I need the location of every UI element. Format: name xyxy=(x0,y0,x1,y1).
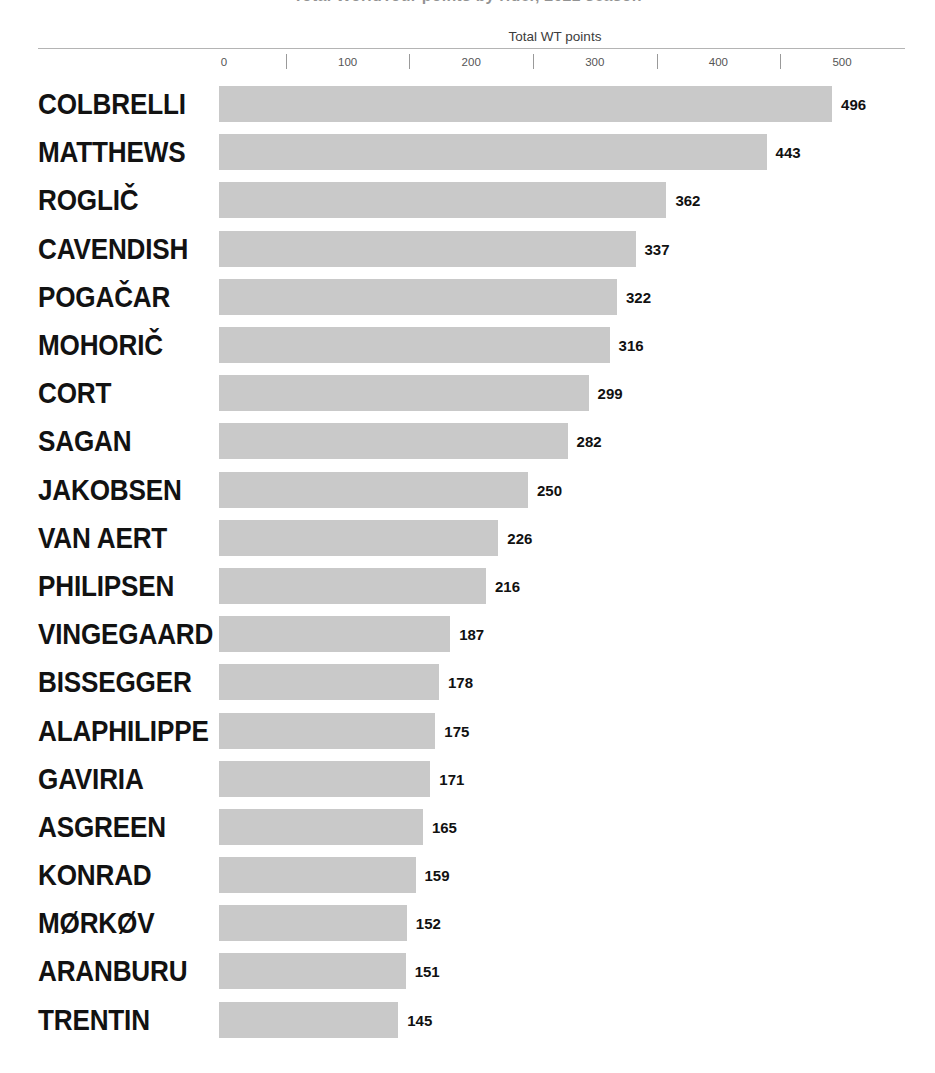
bar-row-label: ASGREEN xyxy=(38,812,166,842)
bar-row-label: BISSEGGER xyxy=(38,667,192,697)
bar-row-label: VAN AERT xyxy=(38,523,167,553)
bar-track: 282 xyxy=(219,423,919,459)
bar-track: 496 xyxy=(219,86,919,122)
clipped-chart-title: Total WorldTour points by rider, 2021 se… xyxy=(0,0,935,12)
bar xyxy=(219,134,767,170)
bar-row-label: MATTHEWS xyxy=(38,137,185,167)
clipped-chart-title-text: Total WorldTour points by rider, 2021 se… xyxy=(0,0,935,5)
bar-row-label: COLBRELLI xyxy=(38,89,186,119)
bar xyxy=(219,86,832,122)
bar-row-label: CORT xyxy=(38,378,111,408)
bar-row: ROGLIČ362 xyxy=(0,176,935,224)
bar xyxy=(219,182,666,218)
bar-track: 165 xyxy=(219,809,919,845)
bar-row: VINGEGAARD187 xyxy=(0,610,935,658)
bar-track: 337 xyxy=(219,231,919,267)
bar-track: 226 xyxy=(219,520,919,556)
bar-value-label: 322 xyxy=(626,289,651,304)
bar-track: 362 xyxy=(219,182,919,218)
bar-row: VAN AERT226 xyxy=(0,514,935,562)
bar-row-label: SAGAN xyxy=(38,426,131,456)
bar-row-label: TRENTIN xyxy=(38,1005,150,1035)
bar-row: CAVENDISH337 xyxy=(0,225,935,273)
bar xyxy=(219,231,636,267)
x-tick-label: 400 xyxy=(709,56,728,68)
bar-row: MØRKØV152 xyxy=(0,899,935,947)
bar-row-label: ROGLIČ xyxy=(38,185,138,215)
bar-value-label: 151 xyxy=(415,964,440,979)
bar-row-label: GAVIRIA xyxy=(38,764,144,794)
bar-value-label: 250 xyxy=(537,482,562,497)
bar-value-label: 216 xyxy=(495,578,520,593)
bar-value-label: 145 xyxy=(407,1012,432,1027)
bar xyxy=(219,905,407,941)
bar-track: 216 xyxy=(219,568,919,604)
bar-row-label: ARANBURU xyxy=(38,956,187,986)
x-tick-mark xyxy=(780,54,781,69)
bar-track: 316 xyxy=(219,327,919,363)
bar-track: 250 xyxy=(219,472,919,508)
bar-value-label: 443 xyxy=(776,145,801,160)
bar-row: GAVIRIA171 xyxy=(0,755,935,803)
bar xyxy=(219,713,435,749)
x-tick-label: 200 xyxy=(462,56,481,68)
x-tick-mark xyxy=(409,54,410,69)
bar-row-label: CAVENDISH xyxy=(38,234,188,264)
bar-row-label: VINGEGAARD xyxy=(38,619,213,649)
bar xyxy=(219,327,610,363)
bar xyxy=(219,568,486,604)
bar-track: 175 xyxy=(219,713,919,749)
bar xyxy=(219,423,568,459)
bar-row: KONRAD159 xyxy=(0,851,935,899)
bar xyxy=(219,375,589,411)
bar-track: 178 xyxy=(219,664,919,700)
bar xyxy=(219,809,423,845)
bar-track: 152 xyxy=(219,905,919,941)
bar-value-label: 496 xyxy=(841,97,866,112)
bar-row: PHILIPSEN216 xyxy=(0,562,935,610)
bar-value-label: 152 xyxy=(416,916,441,931)
bar-row: COLBRELLI496 xyxy=(0,80,935,128)
bar-value-label: 337 xyxy=(645,241,670,256)
bar-row-label: KONRAD xyxy=(38,860,152,890)
bar xyxy=(219,761,430,797)
bar-row: ARANBURU151 xyxy=(0,947,935,995)
bar xyxy=(219,953,406,989)
bar-row: ASGREEN165 xyxy=(0,803,935,851)
bar-row-label: POGAČAR xyxy=(38,282,170,312)
bar-row-label: MOHORIČ xyxy=(38,330,163,360)
bar xyxy=(219,279,617,315)
x-tick-label: 300 xyxy=(585,56,604,68)
x-tick-mark xyxy=(657,54,658,69)
bar-row: MATTHEWS443 xyxy=(0,128,935,176)
bar-value-label: 187 xyxy=(459,627,484,642)
bar-track: 159 xyxy=(219,857,919,893)
bar-track: 322 xyxy=(219,279,919,315)
bar xyxy=(219,664,439,700)
bar-row-label: PHILIPSEN xyxy=(38,571,174,601)
x-axis-ticks: 0100200300400500 xyxy=(0,49,935,80)
bar-value-label: 159 xyxy=(425,868,450,883)
bar-value-label: 175 xyxy=(444,723,469,738)
bar-value-label: 316 xyxy=(619,338,644,353)
bar-track: 443 xyxy=(219,134,919,170)
bar-row: TRENTIN145 xyxy=(0,996,935,1044)
bar-row-label: ALAPHILIPPE xyxy=(38,716,209,746)
bar-track: 145 xyxy=(219,1002,919,1038)
bar-chart: Total WorldTour points by rider, 2021 se… xyxy=(0,0,935,1073)
bar xyxy=(219,472,528,508)
bar xyxy=(219,616,450,652)
bar-value-label: 171 xyxy=(439,771,464,786)
x-axis-title: Total WT points xyxy=(218,29,892,44)
bar-value-label: 178 xyxy=(448,675,473,690)
bar-rows: COLBRELLI496MATTHEWS443ROGLIČ362CAVENDIS… xyxy=(0,80,935,1044)
x-tick-mark xyxy=(533,54,534,69)
bar-value-label: 362 xyxy=(675,193,700,208)
x-tick-label: 500 xyxy=(832,56,851,68)
bar xyxy=(219,857,416,893)
bar-row: ALAPHILIPPE175 xyxy=(0,706,935,754)
bar-row: CORT299 xyxy=(0,369,935,417)
bar-row-label: JAKOBSEN xyxy=(38,475,182,505)
bar-row: POGAČAR322 xyxy=(0,273,935,321)
bar-row: SAGAN282 xyxy=(0,417,935,465)
